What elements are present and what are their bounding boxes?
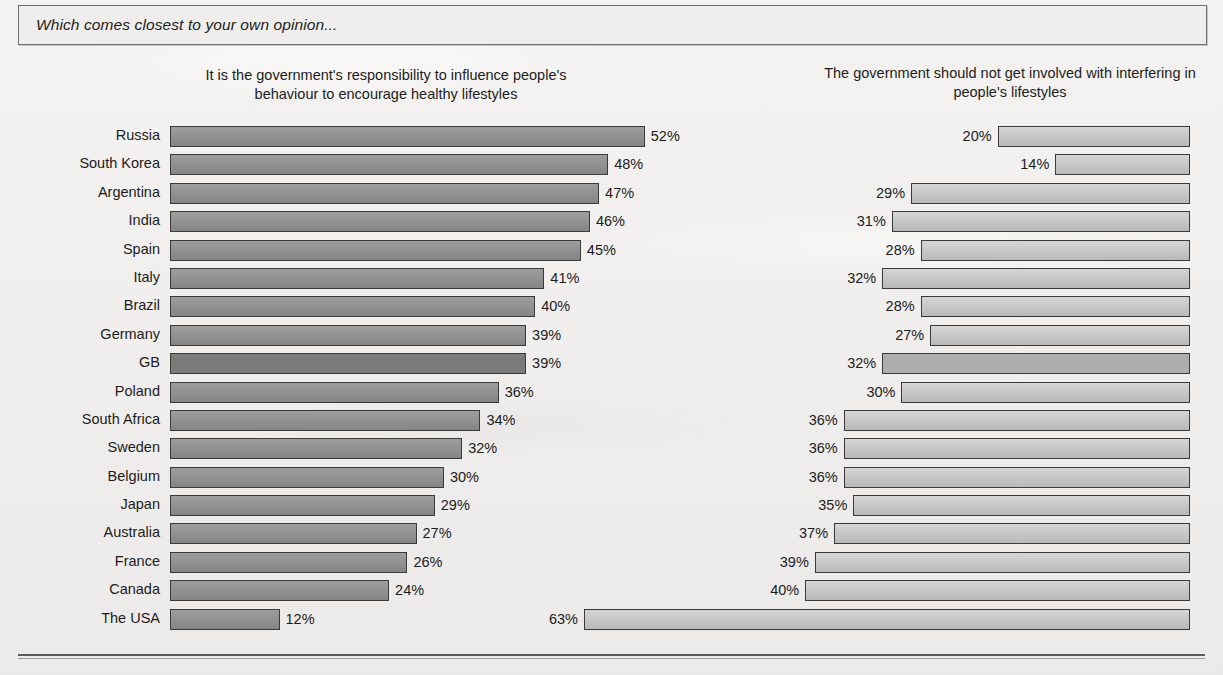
right-bar-group: 32% bbox=[847, 268, 1190, 289]
left-bar-group: 48% bbox=[170, 154, 643, 175]
left-value-label: 36% bbox=[505, 382, 534, 403]
right-value-label: 29% bbox=[876, 183, 905, 204]
left-value-label: 26% bbox=[413, 552, 442, 573]
left-bar-group: 26% bbox=[170, 552, 442, 573]
country-label: GB bbox=[0, 352, 160, 373]
right-bar-group: 29% bbox=[876, 183, 1190, 204]
left-value-label: 30% bbox=[450, 467, 479, 488]
right-bar bbox=[882, 353, 1190, 374]
left-value-label: 40% bbox=[541, 296, 570, 317]
table-row: Argentina47%29% bbox=[0, 181, 1223, 209]
right-bar bbox=[998, 126, 1190, 147]
left-bar bbox=[170, 580, 389, 601]
country-label: Brazil bbox=[0, 295, 160, 316]
right-bar bbox=[584, 609, 1190, 630]
right-value-label: 28% bbox=[886, 240, 915, 261]
table-row: GB39%32% bbox=[0, 351, 1223, 379]
table-row: Brazil40%28% bbox=[0, 294, 1223, 322]
left-value-label: 47% bbox=[605, 183, 634, 204]
left-bar bbox=[170, 211, 590, 232]
table-row: France26%39% bbox=[0, 550, 1223, 578]
left-bar bbox=[170, 296, 535, 317]
left-bar-group: 52% bbox=[170, 126, 680, 147]
left-bar bbox=[170, 609, 280, 630]
right-bar-group: 20% bbox=[963, 126, 1190, 147]
right-bar bbox=[834, 523, 1190, 544]
table-row: Poland36%30% bbox=[0, 380, 1223, 408]
left-bar bbox=[170, 438, 462, 459]
right-value-label: 39% bbox=[780, 552, 809, 573]
right-bar-group: 28% bbox=[886, 296, 1190, 317]
right-bar-group: 63% bbox=[549, 609, 1190, 630]
left-value-label: 48% bbox=[614, 154, 643, 175]
question-banner: Which comes closest to your own opinion.… bbox=[18, 5, 1207, 45]
right-value-label: 35% bbox=[818, 495, 847, 516]
right-bar-group: 40% bbox=[770, 580, 1190, 601]
country-label: The USA bbox=[0, 608, 160, 629]
country-label: Russia bbox=[0, 125, 160, 146]
country-label: Australia bbox=[0, 522, 160, 543]
bar-chart: Russia52%20%South Korea48%14%Argentina47… bbox=[0, 124, 1223, 636]
left-value-label: 45% bbox=[587, 240, 616, 261]
left-value-label: 46% bbox=[596, 211, 625, 232]
right-bar-group: 32% bbox=[847, 353, 1190, 374]
table-row: The USA12%63% bbox=[0, 607, 1223, 635]
right-value-label: 20% bbox=[963, 126, 992, 147]
right-bar bbox=[844, 467, 1190, 488]
left-bar-group: 46% bbox=[170, 211, 625, 232]
right-bar-group: 39% bbox=[780, 552, 1190, 573]
left-value-label: 27% bbox=[423, 523, 452, 544]
country-label: Canada bbox=[0, 579, 160, 600]
right-bar bbox=[892, 211, 1190, 232]
left-bar bbox=[170, 126, 645, 147]
right-value-label: 36% bbox=[809, 467, 838, 488]
left-value-label: 12% bbox=[286, 609, 315, 630]
right-bar bbox=[911, 183, 1190, 204]
country-label: Sweden bbox=[0, 437, 160, 458]
left-bar bbox=[170, 240, 581, 261]
left-value-label: 52% bbox=[651, 126, 680, 147]
country-label: South Africa bbox=[0, 409, 160, 430]
table-row: Belgium30%36% bbox=[0, 465, 1223, 493]
left-bar-group: 39% bbox=[170, 325, 561, 346]
left-bar bbox=[170, 353, 526, 374]
left-column-header: It is the government's responsibility to… bbox=[176, 66, 596, 104]
right-bar bbox=[921, 296, 1190, 317]
table-row: Canada24%40% bbox=[0, 578, 1223, 606]
left-bar bbox=[170, 552, 407, 573]
country-label: Japan bbox=[0, 494, 160, 515]
country-label: Argentina bbox=[0, 182, 160, 203]
left-bar-group: 45% bbox=[170, 240, 616, 261]
left-bar-group: 30% bbox=[170, 467, 479, 488]
right-bar-group: 35% bbox=[818, 495, 1190, 516]
right-bar-group: 36% bbox=[809, 410, 1190, 431]
table-row: Italy41%32% bbox=[0, 266, 1223, 294]
left-bar bbox=[170, 495, 435, 516]
table-row: Spain45%28% bbox=[0, 238, 1223, 266]
left-bar bbox=[170, 325, 526, 346]
left-bar bbox=[170, 183, 599, 204]
question-text: Which comes closest to your own opinion.… bbox=[19, 16, 337, 34]
left-bar bbox=[170, 268, 544, 289]
left-value-label: 41% bbox=[550, 268, 579, 289]
right-bar bbox=[844, 410, 1190, 431]
table-row: India46%31% bbox=[0, 209, 1223, 237]
right-bar-group: 28% bbox=[886, 240, 1190, 261]
right-bar-group: 31% bbox=[857, 211, 1190, 232]
right-value-label: 30% bbox=[866, 382, 895, 403]
right-bar bbox=[805, 580, 1190, 601]
table-row: South Korea48%14% bbox=[0, 152, 1223, 180]
table-row: Russia52%20% bbox=[0, 124, 1223, 152]
right-value-label: 36% bbox=[809, 438, 838, 459]
right-value-label: 40% bbox=[770, 580, 799, 601]
country-label: Belgium bbox=[0, 466, 160, 487]
right-value-label: 36% bbox=[809, 410, 838, 431]
country-label: Italy bbox=[0, 267, 160, 288]
left-bar-group: 40% bbox=[170, 296, 570, 317]
right-column-header: The government should not get involved w… bbox=[800, 64, 1220, 102]
left-bar-group: 24% bbox=[170, 580, 424, 601]
right-bar bbox=[882, 268, 1190, 289]
right-bar-group: 37% bbox=[799, 523, 1190, 544]
left-value-label: 32% bbox=[468, 438, 497, 459]
country-label: Poland bbox=[0, 381, 160, 402]
